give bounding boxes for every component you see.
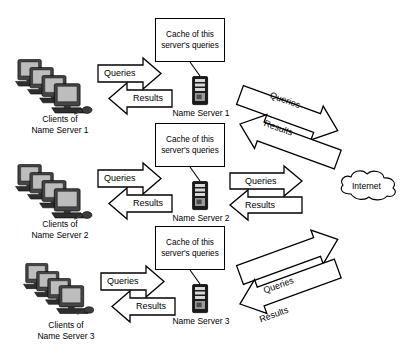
arrow-client-queries-2-label: Queries	[104, 173, 136, 183]
server-1-label: Name Server 1	[165, 108, 237, 119]
arrow-client-queries-3-label: Queries	[107, 276, 139, 286]
server-2-label: Name Server 2	[165, 213, 237, 224]
cache-box-3: Cache of this server's queries	[155, 226, 225, 270]
client-cluster-1-icon	[16, 60, 92, 114]
client-cluster-1-label: Clients of Name Server 1	[12, 114, 108, 135]
cache-box-1: Cache of this server's queries	[155, 18, 225, 62]
cache-box-3-label: Cache of this server's queries	[156, 237, 224, 259]
cache-box-1-label: Cache of this server's queries	[156, 29, 224, 51]
internet-cloud-label: Internet	[352, 181, 381, 191]
server-3-label: Name Server 3	[165, 316, 237, 327]
arrow-net-results-2-label: Results	[245, 200, 275, 210]
cache-box-2-label: Cache of this server's queries	[156, 134, 224, 156]
client-cluster-2-icon	[16, 165, 92, 219]
arrow-net-queries-2-label: Queries	[245, 176, 277, 186]
server-2-icon	[193, 182, 208, 210]
server-1-icon	[193, 77, 208, 105]
client-cluster-3-icon	[23, 263, 93, 314]
cache-server-connector-1	[190, 62, 200, 76]
client-cluster-2-label: Clients of Name Server 2	[12, 219, 108, 240]
arrow-client-results-2-label: Results	[133, 198, 163, 208]
dns-caching-diagram: Cache of this server's queries Cache of …	[0, 0, 418, 361]
cache-box-2: Cache of this server's queries	[155, 123, 225, 167]
arrow-client-queries-1-label: Queries	[104, 68, 136, 78]
cache-server-connector-2	[190, 167, 200, 181]
client-cluster-3-label: Clients of Name Server 3	[18, 320, 114, 341]
cache-server-connector-3	[190, 270, 200, 284]
arrow-client-results-1-label: Results	[133, 93, 163, 103]
server-3-icon	[193, 285, 208, 313]
arrow-client-results-3-label: Results	[136, 301, 166, 311]
